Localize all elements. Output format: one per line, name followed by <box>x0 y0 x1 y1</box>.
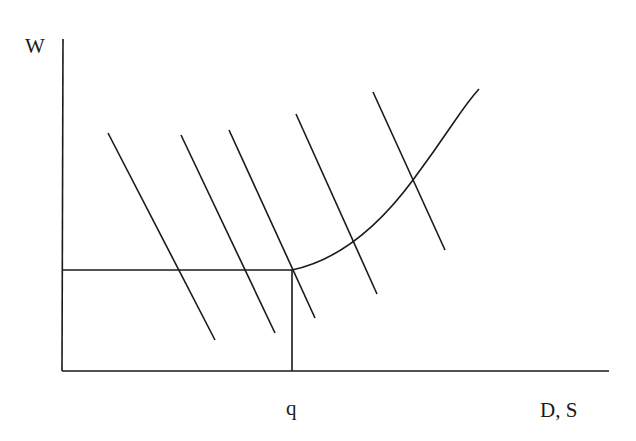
y-axis <box>62 39 63 371</box>
demand-curve-d2 <box>181 135 275 333</box>
y-axis-label: W <box>25 36 45 57</box>
axes <box>62 39 609 371</box>
demand-curve-d1 <box>108 133 215 340</box>
demand-curve-d5 <box>373 92 445 250</box>
demand-curve-d3 <box>229 130 315 318</box>
q-marker-label: q <box>286 398 297 419</box>
reference-lines <box>62 270 292 371</box>
x-axis-label: D, S <box>540 400 577 421</box>
supply-curve <box>292 89 479 270</box>
diagram-canvas <box>0 0 636 441</box>
demand-curve-d4 <box>296 114 377 294</box>
demand-curves <box>108 92 445 340</box>
